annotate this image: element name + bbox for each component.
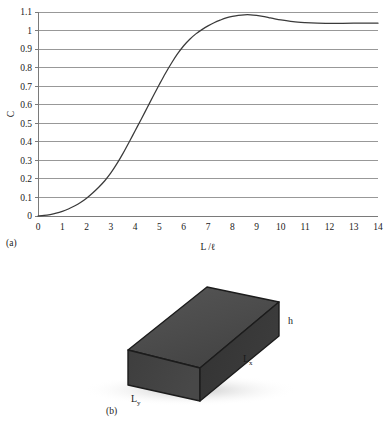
panel-caption-b: (b) (106, 406, 117, 416)
chart-panel: 00.10.20.30.40.50.60.70.80.911.1 0123456… (0, 0, 390, 258)
diagram-panel: h Lx Ly (b) (0, 258, 390, 430)
y-tick-label: 0.4 (20, 137, 32, 147)
y-axis-title: C (6, 111, 16, 117)
x-tick-label: 12 (325, 222, 335, 232)
plot-area-background (38, 12, 378, 216)
y-tick-label: 0.8 (20, 63, 32, 73)
label-height: h (288, 315, 293, 326)
y-tick-label: 0.7 (20, 82, 32, 92)
y-tick-label: 0.1 (20, 193, 32, 203)
y-tick-label: 0.9 (20, 44, 32, 54)
x-axis-title: L /ℓ (200, 242, 215, 252)
y-tick-label: 1.1 (20, 7, 32, 17)
y-tick-labels-group: 00.10.20.30.40.50.60.70.80.911.1 (20, 7, 32, 221)
x-tick-label: 0 (36, 222, 41, 232)
y-tick-label: 0.5 (20, 119, 32, 129)
x-tick-label: 4 (133, 222, 138, 232)
x-tick-label: 14 (373, 222, 383, 232)
x-tick-label: 11 (301, 222, 310, 232)
x-tick-labels-group: 01234567891011121314 (36, 222, 383, 232)
x-tick-label: 9 (254, 222, 259, 232)
line-chart: 00.10.20.30.40.50.60.70.80.911.1 0123456… (0, 0, 390, 258)
x-tick-label: 6 (181, 222, 186, 232)
label-length-y-sub: y (137, 399, 141, 407)
panel-caption-a: (a) (6, 238, 17, 248)
y-tick-label: 0.3 (20, 156, 32, 166)
label-height-base: h (288, 315, 293, 326)
x-tick-label: 13 (349, 222, 359, 232)
y-tick-label: 0 (27, 211, 32, 221)
x-tick-label: 1 (60, 222, 65, 232)
y-tick-label: 0.2 (20, 174, 32, 184)
x-tick-label: 7 (206, 222, 211, 232)
x-tick-label: 10 (276, 222, 286, 232)
x-tick-label: 5 (157, 222, 162, 232)
y-tick-label: 1 (27, 26, 32, 36)
label-length-x-sub: x (249, 359, 253, 367)
x-tick-label: 2 (84, 222, 89, 232)
x-tick-label: 8 (230, 222, 235, 232)
slab-diagram: h Lx Ly (0, 258, 390, 430)
y-tick-label: 0.6 (20, 100, 32, 110)
x-tick-label: 3 (108, 222, 113, 232)
